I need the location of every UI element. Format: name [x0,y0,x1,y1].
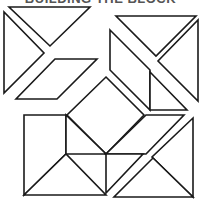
tangram-block-diagram [0,0,201,207]
